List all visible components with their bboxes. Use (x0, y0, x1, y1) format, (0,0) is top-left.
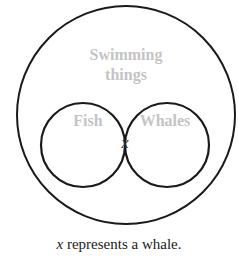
caption-text: represents a whale. (63, 236, 181, 252)
label-fish: Fish (73, 112, 102, 129)
label-whales: Whales (140, 112, 191, 129)
label-swimming: Swimming (90, 46, 163, 64)
caption: x represents a whale. (0, 236, 238, 253)
venn-diagram: Swimming things Fish Whales x (0, 0, 238, 262)
outer-circle-swimming-things (17, 6, 235, 224)
intersection-marker-x: x (120, 134, 128, 151)
label-things: things (105, 66, 147, 84)
